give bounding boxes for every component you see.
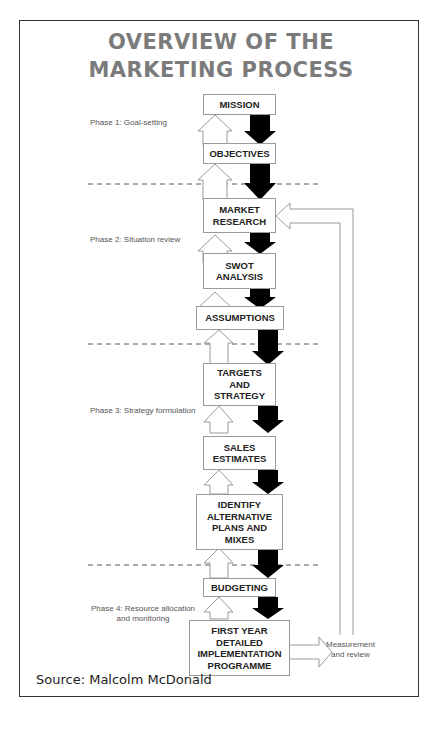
box-budgeting: BUDGETING <box>203 578 276 597</box>
phase-1-label: Phase 1: Goal-setting <box>90 118 167 128</box>
box-objectives: OBJECTIVES <box>203 143 276 164</box>
box-sales-estimates: SALES ESTIMATES <box>203 436 276 470</box>
measurement-review-label: Measurement and review <box>326 640 375 660</box>
box-market-research: MARKET RESEARCH <box>203 198 276 233</box>
phase-3-label: Phase 3: Strategy formulation <box>90 406 195 416</box>
box-mission: MISSION <box>203 94 276 115</box>
box-identify-alternative-plans: IDENTIFY ALTERNATIVE PLANS AND MIXES <box>196 494 283 550</box>
phase-4-label: Phase 4: Resource allocation and monitor… <box>91 604 195 624</box>
box-swot-analysis: SWOT ANALYSIS <box>203 253 276 289</box>
feedback-loop-arrow <box>276 203 353 667</box>
box-targets-and-strategy: TARGETS AND STRATEGY <box>203 363 276 406</box>
box-assumptions: ASSUMPTIONS <box>196 306 284 330</box>
box-first-year-implementation: FIRST YEAR DETAILED IMPLEMENTATION PROGR… <box>189 620 290 676</box>
source-credit: Source: Malcolm McDonald <box>36 672 212 687</box>
phase-2-label: Phase 2: Situation review <box>90 235 180 245</box>
